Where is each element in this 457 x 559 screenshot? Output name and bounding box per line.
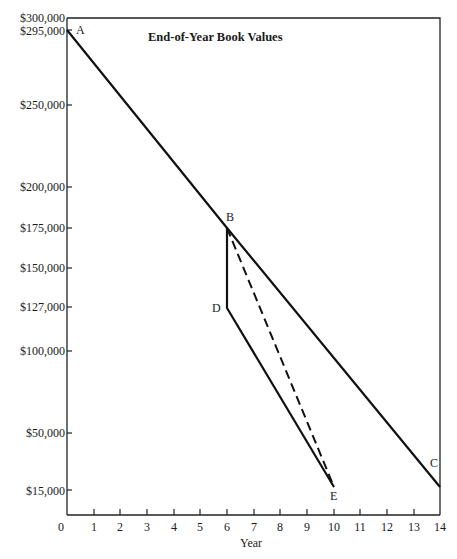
x-tick-label: 6 xyxy=(217,521,237,533)
x-tick-label: 3 xyxy=(137,521,157,533)
x-axis-label: Year xyxy=(240,536,262,551)
y-tick-label: $100,000 xyxy=(20,345,65,357)
y-tick-label: $127,000 xyxy=(20,301,65,313)
x-tick-label: 10 xyxy=(324,521,344,533)
y-tick-label: $295,000 xyxy=(20,25,65,37)
y-tick-label: $250,000 xyxy=(20,99,65,111)
x-tick-label: 8 xyxy=(270,521,290,533)
point-label-d: D xyxy=(212,302,221,314)
x-tick-label: 11 xyxy=(350,521,370,533)
y-tick-label: $175,000 xyxy=(20,222,65,234)
chart-title: End-of-Year Book Values xyxy=(148,30,283,45)
x-tick-label: 13 xyxy=(404,521,424,533)
x-tick-label: 5 xyxy=(190,521,210,533)
x-tick-label: 7 xyxy=(244,521,264,533)
y-tick-label: $15,000 xyxy=(26,485,65,497)
y-tick-marks xyxy=(67,30,72,490)
point-label-c: C xyxy=(430,457,438,469)
point-label-e: E xyxy=(330,490,337,502)
x-tick-label: 4 xyxy=(164,521,184,533)
x-tick-label: 9 xyxy=(297,521,317,533)
line-a-c xyxy=(67,30,440,487)
x-tick-label: 14 xyxy=(430,521,450,533)
x-tick-label: 2 xyxy=(110,521,130,533)
y-tick-label: $150,000 xyxy=(20,262,65,274)
point-label-b: B xyxy=(226,211,234,223)
x-tick-marks xyxy=(94,509,414,515)
point-label-a: A xyxy=(76,24,85,36)
x-tick-label: 12 xyxy=(377,521,397,533)
x-tick-label: 0 xyxy=(51,521,71,533)
plot-frame xyxy=(67,18,440,515)
y-tick-label: $200,000 xyxy=(20,181,65,193)
x-tick-label: 1 xyxy=(84,521,104,533)
y-tick-label: $300,000 xyxy=(20,12,65,24)
chart-canvas xyxy=(0,0,457,559)
y-tick-label: $50,000 xyxy=(26,427,65,439)
line-b-e-dashed xyxy=(227,228,334,487)
